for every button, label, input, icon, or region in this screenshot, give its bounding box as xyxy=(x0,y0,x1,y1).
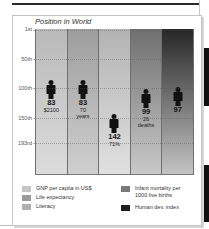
y-axis-label: 50th xyxy=(14,56,32,62)
metric-value: 71% xyxy=(99,141,130,147)
rank-value: 142 xyxy=(99,133,130,141)
legend-swatch xyxy=(22,195,31,201)
column-life-expectancy: 83 70 years xyxy=(67,29,99,174)
gridline xyxy=(33,59,193,60)
legend-label: Infant mortality per 1000 live births xyxy=(135,185,191,198)
top-rule xyxy=(12,3,199,5)
rank-value: 97 xyxy=(162,106,193,114)
legend-item-literacy: Literacy xyxy=(22,203,55,210)
chart-title: Position in World xyxy=(35,17,91,26)
legend-swatch xyxy=(121,186,130,192)
legend-swatch xyxy=(22,204,31,210)
column-gnp: 83 $2100 xyxy=(35,29,67,174)
person-icon xyxy=(78,80,87,99)
rank-value: 83 xyxy=(68,99,99,107)
person-icon xyxy=(47,80,56,99)
y-axis-label: 1st xyxy=(14,26,32,32)
y-axis-label: 100th xyxy=(14,85,32,91)
plot-area: 83 $2100 83 70 years 142 71% 99 26 death… xyxy=(35,29,194,175)
legend-label: Literacy xyxy=(36,203,55,210)
metric-value: $2100 xyxy=(36,107,67,113)
metric-unit: deaths xyxy=(131,122,162,128)
legend: GNP per capita in US$ Life expectancy Li… xyxy=(22,185,197,223)
page-edge-bar xyxy=(204,48,209,106)
person-icon xyxy=(142,89,151,108)
gridline xyxy=(33,30,193,31)
legend-swatch xyxy=(121,205,130,211)
y-axis-label: 193rd xyxy=(14,140,32,146)
legend-label: Human dev. index xyxy=(135,204,179,211)
y-axis-label: 150th xyxy=(14,115,32,121)
legend-item-life-expectancy: Life expectancy xyxy=(22,194,74,201)
gridline xyxy=(33,118,193,119)
legend-item-infant-mortality: Infant mortality per 1000 live births xyxy=(121,185,191,198)
legend-item-gnp: GNP per capita in US$ xyxy=(22,185,92,192)
legend-label: Life expectancy xyxy=(36,194,74,201)
column-infant-mortality: 99 26 deaths xyxy=(130,29,162,174)
gridline xyxy=(33,143,193,144)
gridline xyxy=(33,88,193,89)
legend-label: GNP per capita in US$ xyxy=(36,185,92,192)
person-icon xyxy=(110,114,119,133)
rank-value: 83 xyxy=(36,99,67,107)
person-icon xyxy=(173,87,182,106)
column-literacy: 142 71% xyxy=(98,29,130,174)
page-edge-bar xyxy=(204,165,209,222)
rank-value: 99 xyxy=(131,108,162,116)
legend-item-human-dev-index: Human dev. index xyxy=(121,204,179,211)
legend-swatch xyxy=(22,186,31,192)
column-human-dev-index: 97 xyxy=(161,29,194,174)
